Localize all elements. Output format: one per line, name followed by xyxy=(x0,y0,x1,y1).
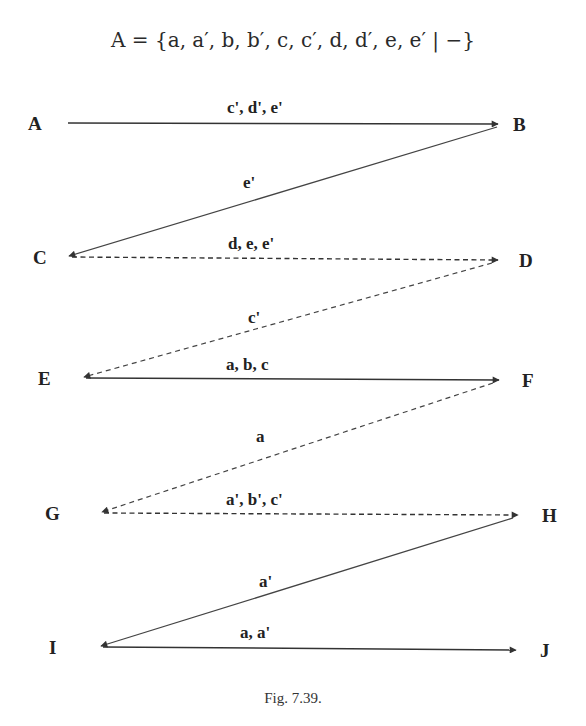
node-f: F xyxy=(522,370,534,391)
node-i: I xyxy=(49,637,56,658)
edge-label-d-e: c' xyxy=(248,308,260,327)
edge-c-d xyxy=(72,257,498,260)
transition-diagram: c', d', e' e' d, e, e' c' a, b, c a a', … xyxy=(0,0,586,726)
node-b: B xyxy=(513,114,526,135)
node-c: C xyxy=(33,247,47,268)
edge-b-c xyxy=(69,127,497,256)
edge-d-e xyxy=(84,263,492,377)
node-d: D xyxy=(519,250,533,271)
node-h: H xyxy=(542,505,557,526)
edge-label-i-j: a, a' xyxy=(240,623,270,642)
edge-label-c-d: d, e, e' xyxy=(228,234,274,253)
node-g: G xyxy=(45,503,60,524)
edge-label-g-h: a', b', c' xyxy=(226,490,283,509)
edge-label-h-i: a' xyxy=(259,572,272,591)
edge-f-g xyxy=(102,383,493,512)
edge-a-b xyxy=(68,123,498,124)
edge-h-i xyxy=(101,518,513,646)
edge-e-f xyxy=(86,378,499,380)
node-a: A xyxy=(28,113,42,134)
edge-label-f-g: a xyxy=(256,427,265,446)
edge-label-a-b: c', d', e' xyxy=(227,98,283,117)
node-e: E xyxy=(38,368,51,389)
edge-g-h xyxy=(104,513,518,515)
node-j: J xyxy=(540,640,550,661)
edge-i-j xyxy=(103,647,516,650)
edge-label-e-f: a, b, c xyxy=(226,355,269,374)
figure-caption: Fig. 7.39. xyxy=(0,690,586,707)
edge-label-b-c: e' xyxy=(243,173,255,192)
